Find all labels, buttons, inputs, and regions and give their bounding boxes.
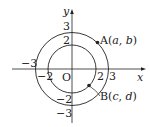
point-a-label: A(a, b) [100,35,137,46]
tick-x-neg2: −2 [37,71,53,82]
tick-y-neg3: −3 [56,108,72,119]
point-b-label: B(c, d) [100,91,137,102]
x-axis-label: x [137,72,143,83]
point-b-prefix: B( [100,90,112,103]
point-a-prefix: A( [100,34,112,47]
y-axis-arrow-icon [70,9,74,14]
point-a-sep: , [119,34,126,47]
tick-x-neg3: −3 [21,58,37,69]
tick-y-2: 2 [63,35,70,46]
y-axis-label: y [63,6,69,17]
tick-x-2: 2 [97,71,104,82]
tick-y-3: 3 [63,21,70,32]
point-b-sep: , [119,90,126,103]
point-a-close: ) [133,34,137,47]
origin-label: O [62,72,71,83]
tick-x-3: 3 [109,71,116,82]
point-a-var-b: b [126,34,133,47]
point-b-var-d: d [126,90,133,103]
tick-y-neg2: −2 [56,94,72,105]
point-b-close: ) [133,90,137,103]
point-a [96,41,100,45]
